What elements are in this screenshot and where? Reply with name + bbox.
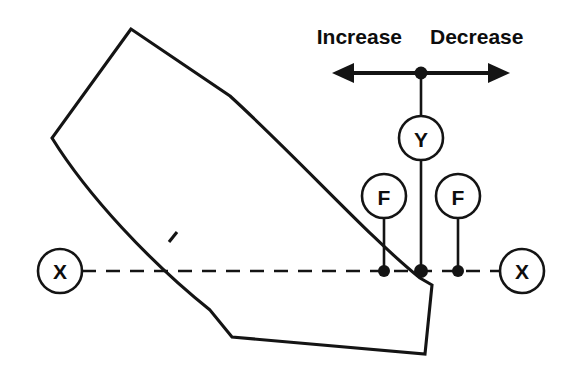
axis-node-left-label: X xyxy=(53,260,67,283)
increase-label: Increase xyxy=(317,25,402,48)
diagram-svg: X X Y F F Increase Decrease xyxy=(0,0,573,373)
force-left-node-label: F xyxy=(378,186,391,209)
resultant-node-label: Y xyxy=(414,128,428,151)
force-diagram-canvas: X X Y F F Increase Decrease xyxy=(0,0,573,373)
axis-node-right-label: X xyxy=(515,260,529,283)
decrease-label: Decrease xyxy=(430,25,523,48)
direction-arrow-head-left xyxy=(332,63,354,83)
force-left-axis-dot xyxy=(378,265,390,277)
force-right-node-label: F xyxy=(452,186,465,209)
segment-tick-mark xyxy=(169,232,177,242)
direction-arrow-center-dot xyxy=(415,67,428,80)
direction-arrow-head-right xyxy=(488,63,510,83)
force-right-axis-dot xyxy=(452,265,464,277)
center-axis-dot xyxy=(414,264,428,278)
